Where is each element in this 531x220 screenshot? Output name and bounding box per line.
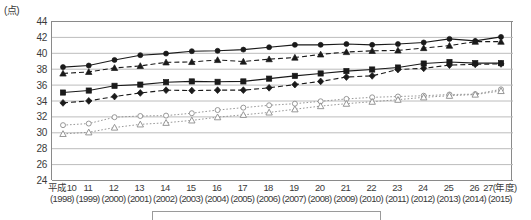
- series-line: [63, 91, 501, 134]
- filled-circle-marker: [112, 57, 117, 62]
- open-circle-marker: [61, 123, 66, 128]
- x-tick-era: 24: [411, 182, 435, 193]
- open-triangle-marker: [111, 124, 117, 130]
- filled-circle-marker: [138, 53, 143, 58]
- open-circle-marker: [267, 103, 272, 108]
- x-tick-era: 21: [333, 182, 357, 193]
- x-tick-year: (2008): [308, 193, 332, 204]
- x-tick-era: 20: [308, 182, 332, 193]
- open-triangle-marker: [137, 121, 143, 127]
- filled-square-marker: [318, 71, 323, 76]
- filled-square-marker: [267, 76, 272, 81]
- x-tick-era: 17: [230, 182, 254, 193]
- filled-diamond-marker: [86, 97, 92, 104]
- open-circle-marker: [164, 113, 169, 118]
- filled-circle-marker: [189, 49, 194, 54]
- x-tick-year: (2006): [256, 193, 280, 204]
- filled-square-marker: [163, 80, 168, 85]
- x-tick-era: 13: [127, 182, 151, 193]
- x-tick-year: (2011): [385, 193, 408, 204]
- y-axis-tick-labels: 4442403836343230282624: [0, 21, 47, 180]
- x-tick-year: (2004): [205, 193, 229, 204]
- x-axis-tick: 19(2007): [282, 182, 306, 204]
- y-axis-tick: 30: [3, 127, 47, 138]
- x-tick-era: 23: [385, 182, 408, 193]
- open-triangle-marker: [266, 109, 272, 115]
- x-tick-year: (2003): [179, 193, 203, 204]
- x-tick-year: (2013): [437, 193, 461, 204]
- x-axis-tick: 21(2009): [333, 182, 357, 204]
- line-chart: (点) 4442403836343230282624 平成10(1998)11(…: [0, 0, 531, 220]
- filled-triangle-marker: [498, 38, 504, 44]
- filled-circle-marker: [370, 42, 375, 47]
- filled-circle-marker: [241, 47, 246, 52]
- y-axis-tick: 34: [3, 95, 47, 106]
- filled-square-marker: [292, 73, 297, 78]
- x-tick-era: 平成10: [48, 182, 76, 193]
- filled-circle-marker: [164, 51, 169, 56]
- series-open-circle: [61, 87, 504, 128]
- x-tick-era: 22: [359, 182, 383, 193]
- x-tick-era: 27(年度): [483, 182, 516, 193]
- x-tick-year: (2001): [127, 193, 151, 204]
- x-tick-year: (1999): [76, 193, 100, 204]
- y-axis-tick: 28: [3, 143, 47, 154]
- x-axis-tick: 17(2005): [230, 182, 254, 204]
- filled-diamond-marker: [111, 93, 117, 100]
- filled-diamond-marker: [343, 74, 349, 81]
- filled-diamond-marker: [369, 72, 375, 79]
- open-triangle-marker: [369, 98, 375, 104]
- x-axis-tick: 27(年度)(2015): [483, 182, 516, 204]
- x-tick-year: (2010): [359, 193, 383, 204]
- open-circle-marker: [241, 105, 246, 110]
- filled-square-marker: [60, 90, 65, 95]
- x-tick-year: (2015): [483, 193, 516, 204]
- x-tick-year: (2012): [411, 193, 435, 204]
- open-triangle-marker: [317, 103, 323, 109]
- x-tick-era: 19: [282, 182, 306, 193]
- y-axis-tick: 26: [3, 159, 47, 170]
- open-triangle-marker: [60, 131, 66, 137]
- filled-diamond-marker: [137, 90, 143, 97]
- filled-diamond-marker: [214, 87, 220, 94]
- plot-area: [51, 21, 512, 180]
- series-filled-diamond: [60, 61, 504, 107]
- open-circle-marker: [86, 121, 91, 126]
- open-circle-marker: [112, 115, 117, 120]
- y-axis-tick: 24: [3, 175, 47, 186]
- x-tick-year: (2000): [102, 193, 126, 204]
- x-axis-tick: 14(2002): [153, 182, 177, 204]
- open-triangle-marker: [240, 112, 246, 118]
- x-axis-tick: 20(2008): [308, 182, 332, 204]
- y-axis-tick: 42: [3, 31, 47, 42]
- series-filled-square: [60, 59, 503, 95]
- filled-diamond-marker: [266, 84, 272, 91]
- filled-square-marker: [112, 83, 117, 88]
- filled-circle-marker: [447, 36, 452, 41]
- x-tick-year: (2005): [230, 193, 254, 204]
- x-axis-tick: 15(2003): [179, 182, 203, 204]
- filled-diamond-marker: [240, 87, 246, 94]
- x-tick-era: 18: [256, 182, 280, 193]
- y-axis-tick: 40: [3, 47, 47, 58]
- filled-square-marker: [138, 82, 143, 87]
- x-axis-tick-labels: 平成10(1998)11(1999)12(2000)13(2001)14(200…: [51, 182, 512, 214]
- x-tick-year: (2009): [333, 193, 357, 204]
- open-triangle-marker: [189, 117, 195, 123]
- filled-diamond-marker: [292, 81, 298, 88]
- data-series-layer: [52, 21, 513, 180]
- x-axis-tick: 18(2006): [256, 182, 280, 204]
- filled-square-marker: [215, 79, 220, 84]
- x-tick-year: (2007): [282, 193, 306, 204]
- series-filled-circle: [61, 34, 504, 69]
- series-open-triangle: [60, 88, 504, 137]
- filled-diamond-marker: [163, 87, 169, 94]
- filled-square-marker: [241, 79, 246, 84]
- filled-triangle-marker: [317, 51, 323, 57]
- filled-circle-marker: [86, 63, 91, 68]
- x-tick-era: 16: [205, 182, 229, 193]
- filled-diamond-marker: [60, 99, 66, 106]
- open-circle-marker: [138, 114, 143, 119]
- x-axis-tick: 12(2000): [102, 182, 126, 204]
- y-axis-tick: 32: [3, 111, 47, 122]
